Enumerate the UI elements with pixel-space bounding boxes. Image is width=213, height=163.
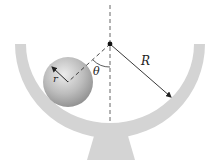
bowl-stand <box>87 136 135 160</box>
label-small-radius: r <box>53 74 58 84</box>
diagram-svg <box>0 0 213 163</box>
big-radius-arrow <box>110 44 171 97</box>
label-theta: θ <box>93 66 100 77</box>
label-big-radius: R <box>141 55 150 67</box>
diagram-canvas: R θ r <box>0 0 213 163</box>
pivot-point <box>108 42 113 47</box>
